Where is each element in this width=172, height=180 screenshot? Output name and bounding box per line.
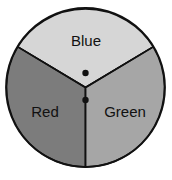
dot-lower — [82, 97, 88, 103]
spinner-diagram: Blue Red Green — [0, 0, 172, 180]
label-red: Red — [31, 103, 59, 120]
label-blue: Blue — [71, 32, 101, 49]
dot-upper — [82, 70, 88, 76]
label-green: Green — [104, 103, 146, 120]
